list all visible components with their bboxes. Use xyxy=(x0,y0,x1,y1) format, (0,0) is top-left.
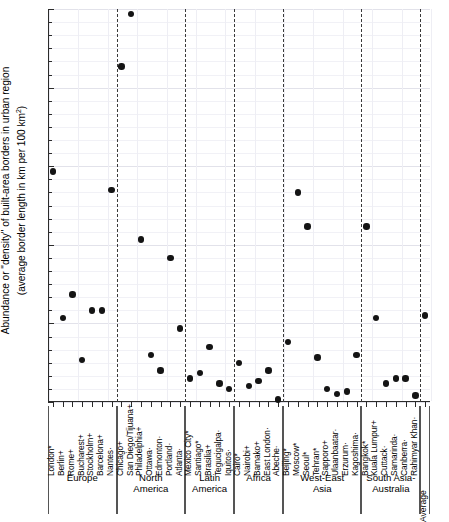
category-label: Rahimyar Khan· xyxy=(409,417,419,476)
y-axis-title: Abundance or "density" of built-area bor… xyxy=(0,0,34,402)
y-axis-tick-minor xyxy=(48,297,52,298)
data-point xyxy=(108,187,114,193)
data-point xyxy=(148,352,154,358)
y-axis-tick-minor xyxy=(48,140,52,141)
category-label: Barcelona+ xyxy=(95,434,105,476)
y-axis-tick-minor xyxy=(48,219,52,220)
data-point xyxy=(383,380,389,386)
data-point xyxy=(69,291,75,297)
category-label: Moscow* xyxy=(291,443,301,476)
gridline-vertical xyxy=(313,9,314,401)
data-point xyxy=(344,388,350,394)
plot-area xyxy=(48,9,430,402)
y-axis-title-line-2: (average border length in km per 100 km2… xyxy=(13,3,29,398)
y-axis-tick-minor xyxy=(48,48,52,49)
gridline-vertical xyxy=(255,9,256,401)
y-axis-tick-minor xyxy=(48,232,52,233)
data-point xyxy=(236,360,242,366)
gridline-vertical xyxy=(167,9,168,401)
y-axis-tick-major xyxy=(48,166,54,167)
y-axis-tick-minor xyxy=(48,258,52,259)
gridline-vertical xyxy=(108,9,109,401)
category-label: Canberra· xyxy=(399,439,409,476)
category-label: Kagoshima· xyxy=(350,432,360,476)
y-axis-tick-minor xyxy=(48,337,52,338)
y-axis-tick-minor xyxy=(48,271,52,272)
category-label: Beijing* xyxy=(281,448,291,476)
data-point xyxy=(265,367,271,373)
region-divider xyxy=(234,9,235,402)
data-point xyxy=(402,375,408,381)
category-label: Berlin+ xyxy=(56,450,66,476)
region-divider xyxy=(361,9,362,402)
y-axis-tick-minor xyxy=(48,114,52,115)
category-label: Bamako+ xyxy=(252,441,262,476)
region-name-line: America xyxy=(186,483,233,494)
category-label: Samarinda· xyxy=(389,434,399,476)
category-label: Cuttack· xyxy=(379,446,389,476)
region-divider xyxy=(283,9,284,402)
data-point xyxy=(167,255,173,261)
y-axis-tick-major xyxy=(48,323,54,324)
category-label: Kuala Lumpur+ xyxy=(369,420,379,476)
data-point xyxy=(393,375,399,381)
region-divider xyxy=(185,9,186,402)
category-label: Rome+ xyxy=(66,449,76,476)
region-name-line: Asia xyxy=(284,483,360,494)
category-label: Tegucigalpa· xyxy=(213,430,223,476)
region-name-line: America xyxy=(118,483,185,494)
gridline-vertical xyxy=(78,9,79,401)
y-axis-tick-minor xyxy=(48,35,52,36)
category-label: Portland· xyxy=(164,443,174,476)
category-label: Abeche· xyxy=(271,446,281,477)
data-point xyxy=(275,396,281,402)
data-point xyxy=(157,367,163,373)
data-point xyxy=(304,223,310,229)
category-label: Brasilia+ xyxy=(203,445,213,476)
data-point xyxy=(295,189,301,195)
category-label: Erzurum· xyxy=(340,442,350,476)
grid-layer xyxy=(49,9,430,401)
y-axis-tick-major xyxy=(48,245,54,246)
y-axis-tick-minor xyxy=(48,350,52,351)
y-axis-tick-major xyxy=(48,88,54,89)
gridline-vertical xyxy=(372,9,373,401)
category-label: Nairobi+ xyxy=(242,445,252,476)
data-point xyxy=(353,352,359,358)
category-label: Ulaanbaatar· xyxy=(330,429,340,476)
category-label: Philadelphia+ xyxy=(134,427,144,476)
category-label-group xyxy=(420,406,430,468)
y-axis-tick-minor xyxy=(48,363,52,364)
category-label: Ottawa· xyxy=(144,447,154,476)
category-label: Mexico City* xyxy=(183,431,193,476)
data-point xyxy=(206,344,212,350)
y-axis-tick-minor xyxy=(48,376,52,377)
y-axis-tick-minor xyxy=(48,206,52,207)
category-label: Stockholm+ xyxy=(85,433,95,476)
category-label: Edmonton· xyxy=(154,436,164,476)
y-axis-tick-minor xyxy=(48,75,52,76)
category-label: London* xyxy=(46,445,56,476)
y-axis-tick-minor xyxy=(48,179,52,180)
gridline-vertical xyxy=(137,9,138,401)
data-point xyxy=(50,168,56,174)
category-label: Nantes· xyxy=(105,447,115,476)
category-label: Cairo* xyxy=(232,453,242,476)
y-axis-tick-minor xyxy=(48,192,52,193)
y-axis-tick-minor xyxy=(48,127,52,128)
data-point xyxy=(412,392,418,398)
data-point xyxy=(314,354,320,360)
data-point xyxy=(99,307,105,313)
y-axis-tick-minor xyxy=(48,101,52,102)
gridline-vertical xyxy=(343,9,344,401)
category-label: Average xyxy=(418,490,428,522)
y-axis-tick-minor xyxy=(48,153,52,154)
category-label: Santiago* xyxy=(193,441,203,476)
gridline-vertical xyxy=(225,9,226,401)
category-label: Seoul* xyxy=(301,452,311,476)
category-label: Iquitos· xyxy=(223,449,233,476)
y-axis-tick-minor xyxy=(48,61,52,62)
y-axis-title-line-1: Abundance or "density" of built-area bor… xyxy=(0,3,12,398)
gridline-vertical xyxy=(196,9,197,401)
